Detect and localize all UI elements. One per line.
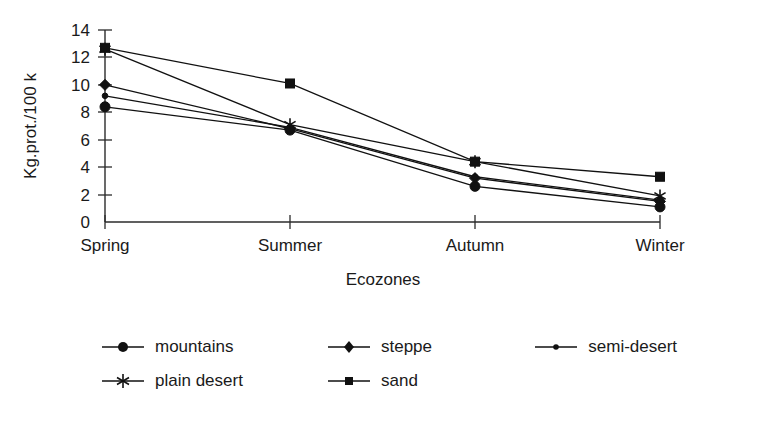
legend-row-2: plain desert sand — [100, 364, 720, 398]
series-semi-desert — [102, 93, 663, 203]
legend-label-mountains: mountains — [155, 337, 233, 357]
legend-label-semi-desert: semi-desert — [588, 337, 677, 357]
series-layer — [99, 43, 665, 212]
y-axis-title: Kg.prot./100 k — [21, 73, 40, 179]
legend-item-mountains: mountains — [100, 337, 326, 357]
series-sand — [101, 43, 665, 181]
legend-label-steppe: steppe — [381, 337, 432, 357]
y-tick-label-8: 8 — [81, 103, 90, 122]
series-line — [105, 107, 660, 207]
legend-label-plain-desert: plain desert — [155, 371, 243, 391]
legend-item-steppe: steppe — [326, 337, 533, 357]
y-tick-label-14: 14 — [71, 21, 90, 40]
y-tick-label-12: 12 — [71, 48, 90, 67]
y-tick-label-10: 10 — [71, 76, 90, 95]
legend-item-semi-desert: semi-desert — [533, 337, 720, 357]
data-point-dot — [472, 174, 478, 180]
x-category-label-autumn: Autumn — [446, 236, 505, 255]
data-point-square — [656, 172, 665, 181]
legend-key-circle-icon — [100, 338, 146, 356]
series-line — [105, 96, 660, 200]
data-point-dot — [102, 93, 108, 99]
y-tick-label-4: 4 — [81, 158, 90, 177]
x-category-label-summer: Summer — [258, 236, 323, 255]
data-point-circle — [100, 102, 110, 112]
y-tick-label-2: 2 — [81, 186, 90, 205]
line-chart-svg: Kg.prot./100 k 14 12 10 8 6 4 2 0 — [0, 0, 763, 300]
legend-key-asterisk-icon — [100, 372, 146, 390]
data-point-square — [101, 43, 110, 52]
data-point-square — [471, 157, 480, 166]
chart-legend: mountains steppe semi-desert — [100, 330, 720, 398]
legend-key-square-icon — [326, 372, 372, 390]
y-tick-label-6: 6 — [81, 131, 90, 150]
legend-key-dot-icon — [533, 338, 579, 356]
plot-area: Kg.prot./100 k 14 12 10 8 6 4 2 0 — [0, 0, 763, 300]
legend-item-sand: sand — [326, 371, 533, 391]
y-tick-label-0: 0 — [81, 213, 90, 232]
x-axis-title: Ecozones — [346, 270, 421, 289]
data-point-square — [286, 79, 295, 88]
x-category-label-spring: Spring — [80, 236, 129, 255]
series-mountains — [100, 102, 665, 212]
chart-figure: Kg.prot./100 k 14 12 10 8 6 4 2 0 — [0, 0, 763, 425]
series-line — [105, 48, 660, 177]
legend-key-diamond-icon — [326, 338, 372, 356]
legend-row-1: mountains steppe semi-desert — [100, 330, 720, 364]
x-category-label-winter: Winter — [635, 236, 684, 255]
legend-item-plain-desert: plain desert — [100, 371, 326, 391]
data-point-diamond — [100, 79, 111, 90]
legend-label-sand: sand — [381, 371, 418, 391]
